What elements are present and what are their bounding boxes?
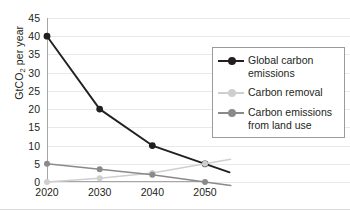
legend-item: Carbon removal bbox=[218, 86, 339, 99]
data-point-marker bbox=[97, 166, 103, 172]
data-point-marker bbox=[44, 179, 50, 185]
legend-marker-icon bbox=[218, 86, 244, 99]
data-point-marker bbox=[97, 175, 103, 181]
legend-dot bbox=[228, 109, 236, 117]
legend-label: Global carbonemissions bbox=[248, 54, 313, 79]
chart-legend: Global carbonemissionsCarbon removalCarb… bbox=[212, 47, 345, 138]
legend-label: Carbon emissionsfrom land use bbox=[248, 106, 332, 131]
data-point-marker bbox=[96, 106, 103, 113]
data-point-marker bbox=[149, 142, 156, 149]
series-line bbox=[47, 36, 230, 172]
data-point-marker bbox=[202, 161, 208, 167]
legend-marker-icon bbox=[218, 106, 244, 119]
data-point-marker bbox=[44, 161, 50, 167]
legend-label: Carbon removal bbox=[248, 86, 323, 99]
legend-dot bbox=[228, 57, 236, 65]
legend-item: Global carbonemissions bbox=[218, 54, 339, 79]
legend-item: Carbon emissionsfrom land use bbox=[218, 106, 339, 131]
series-global-carbon-emissions bbox=[44, 33, 230, 172]
data-point-marker bbox=[202, 179, 208, 185]
chart-container: GtCO2 per year 051015202530354045 202020… bbox=[0, 0, 350, 210]
legend-marker-icon bbox=[218, 54, 244, 67]
legend-dot bbox=[228, 89, 236, 97]
data-point-marker bbox=[44, 33, 51, 40]
data-point-marker bbox=[149, 172, 155, 178]
